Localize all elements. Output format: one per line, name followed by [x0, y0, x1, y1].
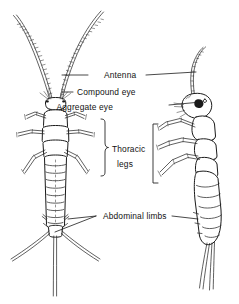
label-abdominal-limbs: Abdominal limbs	[103, 211, 167, 221]
lateral-caudal-filaments	[200, 242, 215, 290]
abdominal-limbs-leader-right	[172, 216, 198, 219]
lateral-compound-eye	[194, 99, 203, 108]
dorsal-right-antenna	[60, 11, 104, 99]
label-compound-eye: Compound eye	[77, 87, 136, 97]
dorsal-thoracic-brace	[101, 119, 109, 176]
dorsal-view	[11, 11, 104, 296]
label-antenna: Antenna	[104, 70, 136, 80]
dorsal-compound-eye-left	[46, 100, 49, 102]
dorsal-caudal-filaments	[11, 225, 100, 296]
silverfish-anatomy-figure: Antenna Compound eye Aggregate eye Thora…	[0, 0, 239, 304]
label-thoracic-legs-line1: Thoracic	[112, 144, 145, 154]
dorsal-abdomen	[45, 155, 67, 229]
lateral-abdomen	[194, 171, 222, 245]
label-thoracic-legs-line2: legs	[117, 159, 133, 169]
antenna-leader-right	[146, 72, 196, 75]
lateral-head	[174, 93, 212, 118]
dorsal-thorax	[42, 110, 69, 160]
lateral-antenna	[191, 47, 206, 96]
lateral-view	[157, 47, 222, 290]
diagram-canvas: Antenna Compound eye Aggregate eye Thora…	[0, 0, 239, 304]
lateral-thoracic-bracket	[153, 124, 158, 183]
label-aggregate-eye: Aggregate eye	[57, 102, 114, 112]
dorsal-left-antenna	[14, 15, 53, 99]
lateral-thorax	[192, 116, 218, 179]
